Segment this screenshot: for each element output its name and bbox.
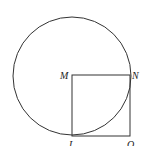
label-O: O — [127, 139, 134, 146]
label-M: M — [59, 70, 69, 81]
label-L: L — [68, 139, 75, 146]
geometry-figure: M N L O — [0, 0, 146, 146]
label-N: N — [131, 70, 140, 81]
